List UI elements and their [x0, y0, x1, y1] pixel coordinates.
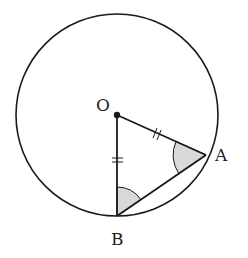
segment-oa — [117, 115, 206, 155]
diagram-canvas: O A B — [0, 0, 248, 258]
label-b: B — [111, 229, 124, 249]
geometry-figure: O A B — [0, 0, 248, 258]
label-a: A — [214, 145, 228, 165]
tick-marks-oa — [153, 128, 161, 140]
segment-ab — [117, 155, 206, 216]
center-point-o — [114, 112, 120, 118]
label-o: O — [96, 95, 110, 115]
